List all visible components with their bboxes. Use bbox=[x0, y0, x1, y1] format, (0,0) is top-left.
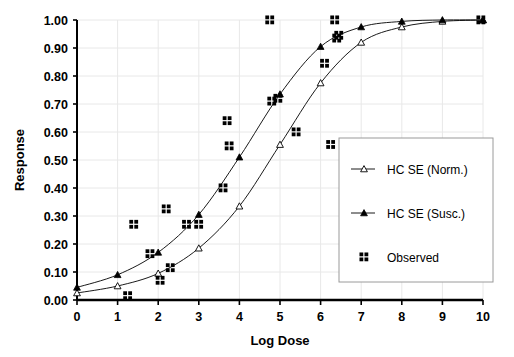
x-tick-label: 10 bbox=[476, 310, 490, 324]
marker-square-quadrant bbox=[219, 188, 223, 192]
marker-square-quadrant bbox=[335, 20, 339, 24]
x-tick-label: 9 bbox=[439, 310, 446, 324]
marker-square-quadrant bbox=[223, 116, 227, 120]
marker-square-quadrant bbox=[292, 127, 296, 131]
marker-square-quadrant bbox=[359, 257, 363, 261]
marker-square-quadrant bbox=[161, 281, 165, 285]
marker-square-quadrant bbox=[151, 254, 155, 258]
y-tick-label: 0.20 bbox=[44, 238, 68, 252]
marker-square-quadrant bbox=[182, 220, 186, 224]
marker-filled-triangle bbox=[155, 249, 162, 255]
marker-square-quadrant bbox=[334, 36, 338, 40]
y-tick-label: 1.00 bbox=[44, 14, 68, 28]
x-tick-label: 0 bbox=[74, 310, 81, 324]
marker-open-triangle bbox=[155, 270, 162, 276]
marker-square-quadrant bbox=[187, 220, 191, 224]
x-tick-label: 3 bbox=[195, 310, 202, 324]
marker-square-quadrant bbox=[330, 15, 334, 19]
marker-square-quadrant bbox=[162, 204, 166, 208]
marker-observed-square bbox=[162, 204, 171, 213]
marker-square-quadrant bbox=[171, 263, 175, 267]
x-tick-label: 2 bbox=[155, 310, 162, 324]
y-tick-label: 0.70 bbox=[44, 98, 68, 112]
marker-square-quadrant bbox=[156, 281, 160, 285]
marker-observed-square bbox=[225, 141, 234, 150]
marker-square-quadrant bbox=[182, 225, 186, 229]
marker-square-quadrant bbox=[225, 141, 229, 145]
marker-square-quadrant bbox=[228, 116, 232, 120]
marker-square-quadrant bbox=[123, 296, 127, 300]
marker-square-quadrant bbox=[326, 140, 330, 144]
y-tick-label: 0.60 bbox=[44, 126, 68, 140]
y-tick-labels: 0.000.100.200.300.400.500.600.700.800.90… bbox=[44, 14, 68, 308]
marker-square-quadrant bbox=[270, 15, 274, 19]
marker-square-quadrant bbox=[320, 64, 324, 68]
marker-open-triangle bbox=[277, 141, 284, 147]
marker-filled-triangle bbox=[236, 154, 243, 160]
x-axis-title: Log Dose bbox=[250, 333, 309, 348]
marker-square-quadrant bbox=[123, 291, 127, 295]
y-tick-label: 0.50 bbox=[44, 154, 68, 168]
marker-square-quadrant bbox=[481, 15, 485, 19]
x-tick-label: 1 bbox=[114, 310, 121, 324]
marker-square-quadrant bbox=[225, 146, 229, 150]
marker-square-quadrant bbox=[224, 183, 228, 187]
marker-observed-square bbox=[223, 116, 232, 125]
marker-square-quadrant bbox=[267, 97, 271, 101]
marker-square-quadrant bbox=[230, 141, 234, 145]
marker-square-quadrant bbox=[364, 252, 368, 256]
marker-square-quadrant bbox=[320, 59, 324, 63]
marker-square-quadrant bbox=[166, 263, 170, 267]
y-tick-label: 0.90 bbox=[44, 42, 68, 56]
marker-square-quadrant bbox=[339, 36, 343, 40]
x-tick-label: 5 bbox=[277, 310, 284, 324]
legend-entry-label: HC SE (Norm.) bbox=[387, 163, 468, 177]
marker-square-quadrant bbox=[146, 254, 150, 258]
marker-square-quadrant bbox=[167, 209, 171, 213]
marker-square-quadrant bbox=[223, 121, 227, 125]
marker-square-quadrant bbox=[476, 20, 480, 24]
marker-square-quadrant bbox=[129, 220, 133, 224]
marker-square-quadrant bbox=[330, 20, 334, 24]
x-tick-label: 6 bbox=[317, 310, 324, 324]
marker-square-quadrant bbox=[199, 225, 203, 229]
marker-square-quadrant bbox=[187, 225, 191, 229]
marker-square-quadrant bbox=[161, 276, 165, 280]
marker-square-quadrant bbox=[278, 99, 282, 103]
marker-square-quadrant bbox=[219, 183, 223, 187]
marker-square-quadrant bbox=[128, 296, 132, 300]
marker-square-quadrant bbox=[224, 188, 228, 192]
marker-square-quadrant bbox=[171, 268, 175, 272]
marker-square-quadrant bbox=[128, 291, 132, 295]
marker-square-quadrant bbox=[278, 94, 282, 98]
marker-square-quadrant bbox=[364, 257, 368, 261]
marker-square-quadrant bbox=[335, 15, 339, 19]
y-tick-label: 0.00 bbox=[44, 294, 68, 308]
marker-square-quadrant bbox=[146, 249, 150, 253]
marker-square-quadrant bbox=[199, 220, 203, 224]
legend-entry-label: Observed bbox=[387, 251, 439, 265]
marker-square-quadrant bbox=[476, 15, 480, 19]
marker-observed-square bbox=[320, 59, 329, 68]
marker-observed-square bbox=[129, 220, 138, 229]
marker-square-quadrant bbox=[297, 132, 301, 136]
marker-square-quadrant bbox=[151, 249, 155, 253]
marker-observed-square bbox=[326, 140, 335, 149]
marker-square-quadrant bbox=[166, 268, 170, 272]
marker-square-quadrant bbox=[292, 132, 296, 136]
marker-square-quadrant bbox=[194, 225, 198, 229]
marker-square-quadrant bbox=[134, 225, 138, 229]
marker-square-quadrant bbox=[273, 94, 277, 98]
x-tick-label: 4 bbox=[236, 310, 243, 324]
marker-square-quadrant bbox=[273, 99, 277, 103]
y-tick-label: 0.80 bbox=[44, 70, 68, 84]
marker-square-quadrant bbox=[156, 276, 160, 280]
marker-square-quadrant bbox=[265, 15, 269, 19]
marker-square-quadrant bbox=[162, 209, 166, 213]
marker-square-quadrant bbox=[228, 121, 232, 125]
marker-square-quadrant bbox=[194, 220, 198, 224]
marker-square-quadrant bbox=[325, 59, 329, 63]
marker-square-quadrant bbox=[129, 225, 133, 229]
x-tick-labels: 012345678910 bbox=[74, 310, 490, 324]
y-axis-title: Response bbox=[12, 129, 27, 191]
